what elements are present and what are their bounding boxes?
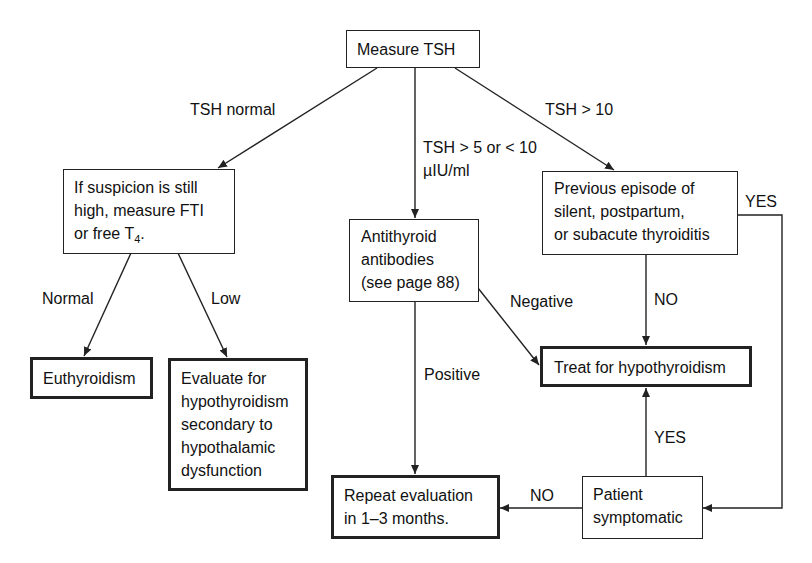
label-tsh-normal: TSH normal bbox=[190, 100, 275, 120]
node-text: dysfunction bbox=[181, 459, 295, 482]
node-text: high, measure FTI bbox=[74, 199, 224, 222]
node-repeat: Repeat evaluation in 1–3 months. bbox=[331, 475, 500, 539]
node-treat: Treat for hypothyroidism bbox=[540, 346, 752, 387]
node-suspicion: If suspicion is still high, measure FTI … bbox=[63, 169, 235, 254]
label-normal: Normal bbox=[42, 289, 94, 309]
node-previous-episode: Previous episode of silent, postpartum, … bbox=[542, 171, 738, 255]
node-text: silent, postpartum, bbox=[554, 200, 726, 223]
node-text: Repeat evaluation bbox=[344, 484, 487, 507]
node-evaluate: Evaluate for hypothyroidism secondary to… bbox=[168, 358, 308, 491]
label-tsh-mid-1: TSH > 5 or < 10 bbox=[423, 138, 537, 158]
node-text: Antithyroid bbox=[361, 225, 467, 248]
node-antibodies: Antithyroid antibodies (see page 88) bbox=[349, 219, 479, 302]
node-measure-tsh: Measure TSH bbox=[346, 30, 480, 68]
label-prev-yes: YES bbox=[745, 192, 777, 212]
node-text: Euthyroidism bbox=[43, 367, 140, 390]
node-text: or subacute thyroiditis bbox=[554, 223, 726, 246]
label-tsh-mid-2: µIU/ml bbox=[423, 161, 470, 181]
node-text: hypothalamic bbox=[181, 436, 295, 459]
node-text: (see page 88) bbox=[361, 271, 467, 294]
node-text: symptomatic bbox=[593, 506, 692, 529]
label-negative: Negative bbox=[510, 292, 573, 312]
node-text-part: or free T bbox=[74, 225, 134, 242]
label-prev-no: NO bbox=[654, 290, 678, 310]
node-text-part: . bbox=[140, 225, 144, 242]
label-positive: Positive bbox=[424, 365, 480, 385]
node-text: antibodies bbox=[361, 248, 467, 271]
node-text: hypothyroidism bbox=[181, 390, 295, 413]
node-text: secondary to bbox=[181, 413, 295, 436]
node-text: Treat for hypothyroidism bbox=[554, 356, 738, 379]
node-symptomatic: Patient symptomatic bbox=[582, 476, 703, 539]
node-text: If suspicion is still bbox=[74, 176, 224, 199]
node-text: Measure TSH bbox=[357, 38, 469, 61]
node-text: in 1–3 months. bbox=[344, 507, 487, 530]
node-text: Evaluate for bbox=[181, 367, 295, 390]
node-euthyroidism: Euthyroidism bbox=[30, 357, 153, 399]
node-text: Previous episode of bbox=[554, 177, 726, 200]
node-text: Patient bbox=[593, 483, 692, 506]
node-text: or free T4. bbox=[74, 222, 224, 251]
label-tsh-high: TSH > 10 bbox=[545, 100, 613, 120]
label-low: Low bbox=[211, 289, 240, 309]
label-symp-yes: YES bbox=[654, 428, 686, 448]
label-symp-no: NO bbox=[530, 486, 554, 506]
